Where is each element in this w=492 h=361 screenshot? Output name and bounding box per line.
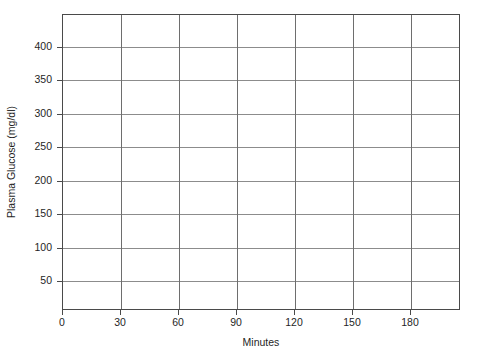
chart-container: Plasma Glucose (mg/dl) 400 350 300 250 2… [0,0,492,361]
x-tick-label: 90 [214,316,258,328]
y-tick-group-150: 150 [0,208,52,219]
gridline-horizontal-100 [63,248,459,249]
gridline-horizontal-150 [63,214,459,215]
y-tick-label: 50 [12,275,52,286]
x-tick-mark [294,310,295,315]
gridline-horizontal-350 [63,80,459,81]
gridline-horizontal-400 [63,47,459,48]
gridline-vertical-90 [237,15,238,309]
y-tick-group-50: 50 [0,275,52,286]
x-tick-mark [62,310,63,315]
gridline-horizontal-250 [63,147,459,148]
y-tick-group-300: 300 [0,108,52,119]
y-tick-group-200: 200 [0,175,52,186]
gridline-vertical-30 [121,15,122,309]
y-tick-label: 100 [12,242,52,253]
gridline-horizontal-200 [63,181,459,182]
gridline-vertical-180 [411,15,412,309]
x-tick-mark [120,310,121,315]
y-tick-group-250: 250 [0,141,52,152]
x-tick-mark [352,310,353,315]
y-tick-label: 250 [12,141,52,152]
y-tick-label: 150 [12,208,52,219]
y-tick-group-100: 100 [0,242,52,253]
y-tick-group-350: 350 [0,74,52,85]
y-tick-label: 300 [12,108,52,119]
x-tick-label: 180 [388,316,432,328]
x-tick-label: 60 [156,316,200,328]
y-tick-label: 350 [12,74,52,85]
x-axis-title: Minutes [62,336,460,348]
gridline-vertical-150 [353,15,354,309]
x-tick-label: 150 [330,316,374,328]
gridline-horizontal-300 [63,114,459,115]
x-tick-label: 120 [272,316,316,328]
gridline-vertical-60 [179,15,180,309]
x-tick-mark [236,310,237,315]
y-tick-label: 400 [12,41,52,52]
y-tick-label: 200 [12,175,52,186]
x-tick-label: 0 [40,316,84,328]
y-axis-title: Plasma Glucose (mg/dl) [0,14,22,310]
x-tick-mark [410,310,411,315]
y-tick-group-400: 400 [0,41,52,52]
data-series-layer [63,15,459,309]
gridline-vertical-120 [295,15,296,309]
plot-area [62,14,460,310]
gridline-horizontal-50 [63,281,459,282]
x-tick-mark [178,310,179,315]
x-tick-label: 30 [98,316,142,328]
